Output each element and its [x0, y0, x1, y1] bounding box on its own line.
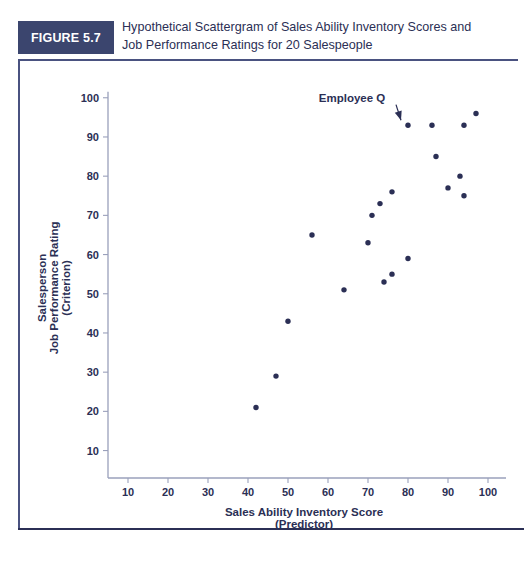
x-tick-label: 40	[242, 486, 254, 498]
data-point	[405, 256, 410, 261]
y-axis-title-line: Job Performance Rating	[48, 221, 60, 354]
data-point	[365, 240, 370, 245]
y-tick-label: 30	[87, 366, 99, 378]
scatter-plot: 1020304050607080901001020304050607080901…	[0, 0, 532, 561]
data-point	[381, 279, 386, 284]
x-tick-label: 20	[162, 486, 174, 498]
y-tick-label: 100	[81, 92, 99, 104]
y-tick-label: 70	[87, 209, 99, 221]
data-point	[445, 185, 450, 190]
y-tick-label: 10	[87, 445, 99, 457]
x-tick-label: 10	[122, 486, 134, 498]
data-point	[461, 193, 466, 198]
data-point	[473, 111, 478, 116]
y-tick-label: 40	[87, 327, 99, 339]
x-tick-label: 90	[442, 486, 454, 498]
y-tick-label: 90	[87, 131, 99, 143]
y-axis-title-line: Salesperson	[36, 254, 48, 322]
figure-container: FIGURE 5.7 Hypothetical Scattergram of S…	[0, 0, 532, 561]
y-tick-label: 50	[87, 288, 99, 300]
x-axis-title: Sales Ability Inventory Score	[225, 506, 383, 518]
ticks-group: 1020304050607080901001020304050607080901…	[81, 92, 498, 498]
data-point	[369, 213, 374, 218]
x-tick-label: 30	[202, 486, 214, 498]
y-axis-title-line: (Criterion)	[60, 260, 72, 316]
data-points-group	[253, 111, 478, 410]
data-point	[341, 287, 346, 292]
data-point	[377, 201, 382, 206]
x-tick-label: 80	[402, 486, 414, 498]
annotation-label: Employee Q	[319, 92, 386, 104]
annotations-group: Employee Q	[319, 92, 402, 121]
x-tick-label: 70	[362, 486, 374, 498]
x-tick-label: 100	[479, 486, 497, 498]
x-axis-subtitle: (Predictor)	[275, 518, 333, 530]
data-point	[405, 123, 410, 128]
data-point	[433, 154, 438, 159]
y-tick-label: 80	[87, 170, 99, 182]
data-point	[253, 405, 258, 410]
data-point	[389, 189, 394, 194]
data-point	[461, 123, 466, 128]
data-point	[429, 123, 434, 128]
annotation-arrow-head	[395, 111, 402, 121]
data-point	[389, 271, 394, 276]
data-point	[457, 173, 462, 178]
y-tick-label: 60	[87, 249, 99, 261]
data-point	[285, 319, 290, 324]
data-point	[273, 373, 278, 378]
y-tick-label: 20	[87, 405, 99, 417]
x-tick-label: 60	[322, 486, 334, 498]
data-point	[309, 232, 314, 237]
axes-group	[108, 92, 506, 478]
x-tick-label: 50	[282, 486, 294, 498]
